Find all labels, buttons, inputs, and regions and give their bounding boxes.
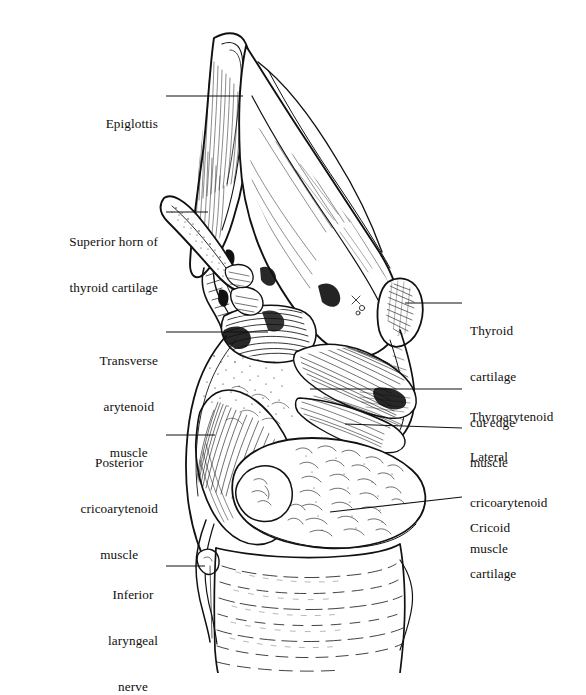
label-superior-horn-line-2: thyroid cartilage [69,280,158,295]
label-transverse-arytenoid-line-2: arytenoid [100,399,158,414]
trachea-shape [214,544,412,673]
label-superior-horn-of-thyroid-cartilage: Superior horn of thyroid cartilage [69,203,158,326]
label-epiglottis-line-1: Epiglottis [106,116,158,131]
cricoid-cartilage-shape [232,438,425,548]
label-superior-horn-line-1: Superior horn of [69,234,158,249]
label-cricoid-cartilage-line-1: Cricoid [470,520,516,535]
label-inferior-laryngeal-nerve-line-2: laryngeal [108,633,158,648]
label-lateral-cricoarytenoid-line-1: Lateral [470,449,548,464]
label-inferior-laryngeal-nerve: Inferior laryngeal nerve [108,556,158,695]
label-posterior-cricoarytenoid-line-2: cricoarytenoid [80,501,158,516]
label-posterior-cricoarytenoid-line-1: Posterior [80,455,158,470]
label-epiglottis: Epiglottis [106,85,158,162]
thyroid-cut-edge-shape [377,278,422,346]
arytenoid-cartilage-shape [225,265,263,316]
inferior-laryngeal-nerve-shape [196,520,219,644]
label-cricoid-cartilage-line-2: cartilage [470,566,516,581]
label-inferior-laryngeal-nerve-line-3: nerve [108,679,158,694]
label-inferior-laryngeal-nerve-line-1: Inferior [108,587,158,602]
label-cricoid-cartilage: Cricoid cartilage [470,489,516,612]
label-transverse-arytenoid-line-1: Transverse [100,353,158,368]
label-thyroid-cut-edge-line-1: Thyroid [470,323,516,338]
